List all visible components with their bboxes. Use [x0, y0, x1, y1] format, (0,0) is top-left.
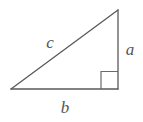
- vertical-leg-label: a: [126, 40, 135, 59]
- hypotenuse-label: c: [46, 33, 54, 52]
- horizontal-leg-label: b: [61, 98, 70, 117]
- triangle-figure: c a b: [0, 0, 143, 122]
- hypotenuse-line: [11, 10, 118, 89]
- right-angle-marker-icon: [101, 72, 118, 90]
- right-triangle-diagram: c a b: [0, 0, 143, 122]
